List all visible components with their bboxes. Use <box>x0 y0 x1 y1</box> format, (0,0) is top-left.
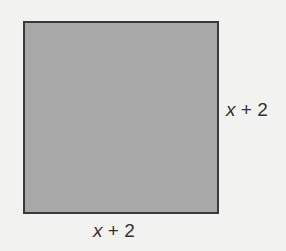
variable-x: x <box>93 220 103 241</box>
variable-x: x <box>226 99 236 120</box>
shaded-square <box>23 21 219 214</box>
side-label-right: x + 2 <box>226 99 268 121</box>
label-rest: + 2 <box>236 99 268 120</box>
side-label-bottom: x + 2 <box>93 220 135 242</box>
label-rest: + 2 <box>103 220 135 241</box>
